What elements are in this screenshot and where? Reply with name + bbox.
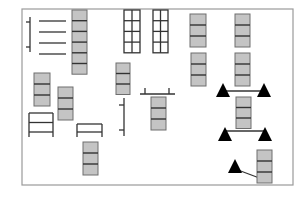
diagram-canvas xyxy=(0,0,307,198)
stack-center-low xyxy=(151,97,166,130)
triangle-icon xyxy=(218,127,232,141)
stack-bottom-left xyxy=(83,142,98,175)
stack-block xyxy=(190,14,206,47)
stack-block xyxy=(236,97,251,129)
stack-block xyxy=(151,97,166,130)
stack-right-top-b xyxy=(235,14,250,47)
triangle-icon xyxy=(228,159,242,173)
stack-block xyxy=(191,53,206,86)
comb-top-left xyxy=(26,17,66,54)
ladder-mid-bottom xyxy=(77,124,102,137)
stack-mid xyxy=(116,63,130,95)
stack-block xyxy=(257,150,272,183)
bracket-group xyxy=(119,88,175,136)
bracket-vertical-mid xyxy=(119,98,124,136)
triangle-icon xyxy=(258,127,272,141)
stack-right-center xyxy=(236,97,251,129)
grid-ladder-a xyxy=(124,10,140,53)
ladder-left-bottom xyxy=(29,113,53,137)
stack-top-left xyxy=(72,10,87,74)
grid-ladder-b xyxy=(153,10,168,53)
stack-left-a xyxy=(34,73,50,106)
stack-right-top-a xyxy=(190,14,206,47)
stack-block xyxy=(116,63,130,95)
stack-block xyxy=(58,87,73,120)
stack-block xyxy=(235,53,250,86)
comb-group xyxy=(26,17,66,54)
stack-block xyxy=(34,73,50,106)
stack-block xyxy=(83,142,98,175)
stack-block xyxy=(235,14,250,47)
bracket-horizontal-mid xyxy=(140,88,175,94)
triangle-icon xyxy=(257,83,271,97)
stack-left-b xyxy=(58,87,73,120)
stack-right-mid-b xyxy=(235,53,250,86)
stack-right-bottom xyxy=(257,150,272,183)
stack-right-mid-a xyxy=(191,53,206,86)
triangle-icon xyxy=(216,83,230,97)
